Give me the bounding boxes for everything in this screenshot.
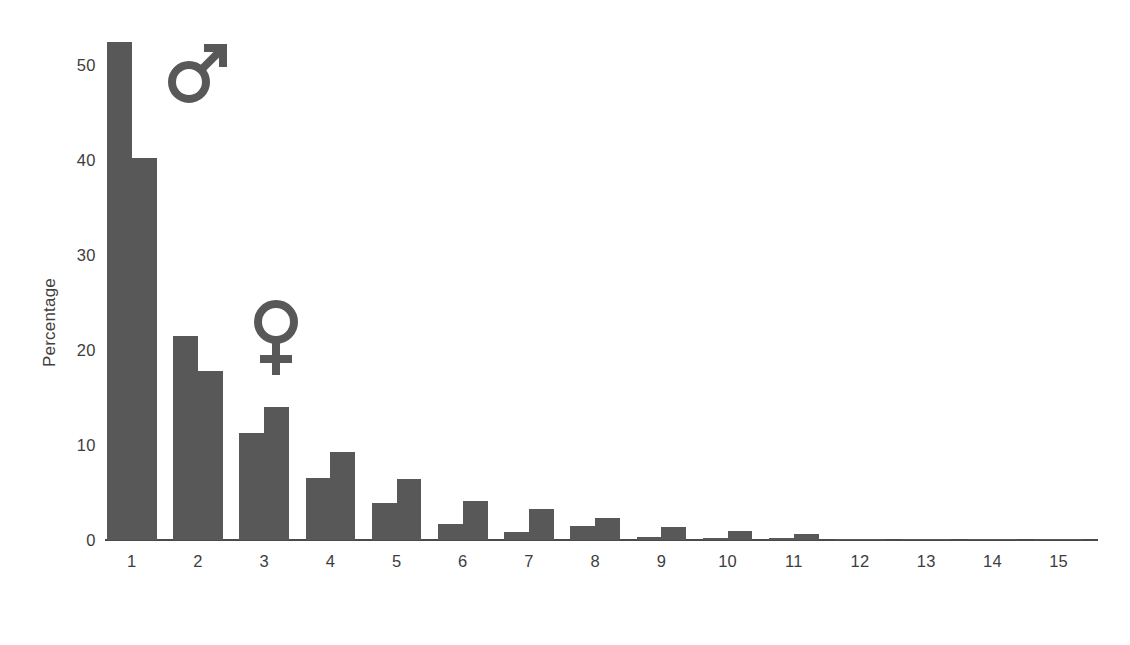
chart-page: Percentage 01020304050 12345678910111213… xyxy=(0,0,1130,645)
x-tick-label-3: 3 xyxy=(259,552,268,571)
x-tick-label-1: 1 xyxy=(127,552,136,571)
bar-female-age-11 xyxy=(794,534,819,540)
bar-male-age-5 xyxy=(372,503,397,540)
bar-group xyxy=(769,18,819,540)
x-tick-label-8: 8 xyxy=(590,552,599,571)
bar-group xyxy=(107,18,157,540)
x-tick-label-9: 9 xyxy=(657,552,666,571)
female-gender-symbol-icon xyxy=(247,297,305,383)
bar-male-age-7 xyxy=(504,532,529,540)
x-tick-label-7: 7 xyxy=(524,552,533,571)
bar-female-age-8 xyxy=(595,518,620,540)
bar-group xyxy=(968,18,1018,540)
bar-male-age-10 xyxy=(703,538,728,540)
bar-male-age-11 xyxy=(769,538,794,540)
bar-female-age-12 xyxy=(860,539,885,540)
bar-female-age-5 xyxy=(397,479,422,540)
y-tick-label: 30 xyxy=(66,246,96,265)
bar-female-age-1 xyxy=(132,158,157,540)
bar-male-age-8 xyxy=(570,526,595,540)
bar-group xyxy=(438,18,488,540)
bar-female-age-10 xyxy=(728,531,753,540)
x-tick-label-13: 13 xyxy=(917,552,936,571)
x-tick-label-10: 10 xyxy=(718,552,737,571)
bar-male-age-12 xyxy=(835,539,860,540)
bar-group xyxy=(239,18,289,540)
bar-male-age-14 xyxy=(968,539,993,540)
bar-female-age-3 xyxy=(264,407,289,540)
bar-female-age-9 xyxy=(661,527,686,540)
bar-group xyxy=(1034,18,1084,540)
x-tick-label-14: 14 xyxy=(983,552,1002,571)
bar-group xyxy=(504,18,554,540)
bar-male-age-3 xyxy=(239,433,264,540)
x-tick-label-11: 11 xyxy=(785,552,803,571)
bar-male-age-9 xyxy=(637,537,662,540)
bar-female-age-6 xyxy=(463,501,488,540)
bar-female-age-13 xyxy=(926,539,951,540)
male-gender-symbol-icon xyxy=(163,42,229,112)
bar-group xyxy=(570,18,620,540)
x-tick-label-5: 5 xyxy=(392,552,401,571)
bar-group xyxy=(901,18,951,540)
bar-female-age-14 xyxy=(992,539,1017,540)
y-tick-label: 10 xyxy=(66,436,96,455)
bar-male-age-6 xyxy=(438,524,463,540)
bar-male-age-2 xyxy=(173,336,198,540)
bar-female-age-15 xyxy=(1059,539,1084,540)
bar-group xyxy=(637,18,687,540)
x-tick-label-2: 2 xyxy=(193,552,202,571)
bar-group xyxy=(306,18,356,540)
x-tick-label-15: 15 xyxy=(1049,552,1068,571)
y-tick-label: 20 xyxy=(66,341,96,360)
bar-male-age-1 xyxy=(107,42,132,540)
x-tick-label-4: 4 xyxy=(326,552,335,571)
x-tick-label-6: 6 xyxy=(458,552,467,571)
plot-area xyxy=(105,18,1098,540)
bar-male-age-4 xyxy=(306,478,331,540)
bar-group xyxy=(703,18,753,540)
bar-male-age-15 xyxy=(1034,539,1059,540)
y-tick-label: 0 xyxy=(66,531,96,550)
bar-group xyxy=(835,18,885,540)
bar-female-age-2 xyxy=(198,371,223,540)
y-tick-label: 50 xyxy=(66,56,96,75)
y-tick-label: 40 xyxy=(66,151,96,170)
y-axis-tick-labels: 01020304050 xyxy=(52,0,96,645)
bar-male-age-13 xyxy=(901,539,926,540)
bar-female-age-7 xyxy=(529,509,554,540)
bar-group xyxy=(372,18,422,540)
bar-female-age-4 xyxy=(330,452,355,540)
x-tick-label-12: 12 xyxy=(851,552,870,571)
